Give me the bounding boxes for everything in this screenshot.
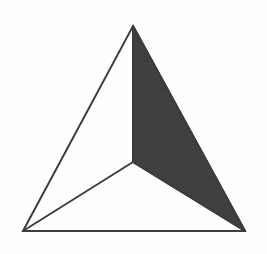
tetrahedron-diagram [0,0,267,254]
figure-canvas [0,0,267,254]
